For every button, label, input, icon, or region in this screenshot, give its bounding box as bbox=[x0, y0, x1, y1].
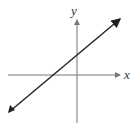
y-axis-label: y bbox=[69, 3, 77, 18]
x-axis-label: x bbox=[123, 67, 130, 82]
line-arrow-lower-left-icon bbox=[8, 105, 15, 113]
graph-line bbox=[9, 19, 120, 112]
coordinate-graph: x y bbox=[0, 0, 136, 125]
